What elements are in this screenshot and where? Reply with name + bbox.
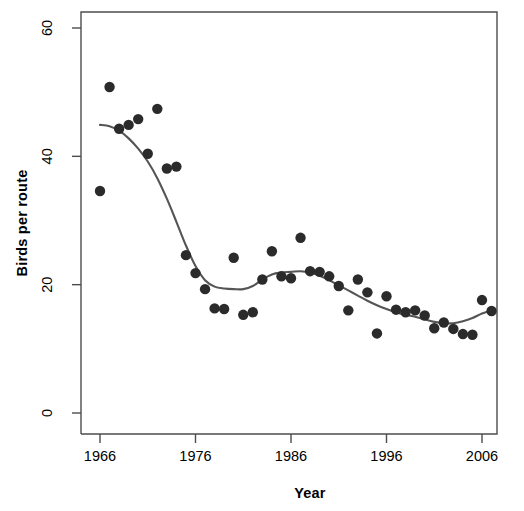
data-point [486,306,496,316]
tick-marks [72,28,482,443]
data-point [343,305,353,315]
data-point [152,104,162,114]
data-point [114,124,124,134]
data-point [162,163,172,173]
data-point [391,304,401,314]
data-point [267,246,277,256]
data-point [410,305,420,315]
x-tick-label: 1966 [84,448,116,464]
data-point [439,317,449,327]
data-point [143,149,153,159]
data-point [104,82,114,92]
data-point [305,266,315,276]
chart-figure: Birds per route Year 1966197619861996200… [0,0,524,511]
plot-canvas [0,0,524,511]
data-point [286,273,296,283]
data-point [219,304,229,314]
data-point [314,267,324,277]
data-point [123,120,133,130]
data-points-group [95,82,497,340]
data-point [458,329,468,339]
data-point [257,274,267,284]
data-point [171,161,181,171]
data-point [229,253,239,263]
data-point [381,291,391,301]
x-axis-title: Year [294,485,325,501]
data-point [324,271,334,281]
y-tick-label: 0 [39,409,55,417]
data-point [181,250,191,260]
x-tick-label: 1996 [370,448,402,464]
data-point [295,233,305,243]
data-point [200,284,210,294]
data-point [190,268,200,278]
trend-line-path [100,125,492,323]
data-point [133,114,143,124]
x-tick-label: 2006 [466,448,498,464]
data-point [400,307,410,317]
data-point [238,310,248,320]
data-point [372,328,382,338]
y-axis-title: Birds per route [14,170,30,277]
y-tick-label: 20 [39,277,55,293]
data-point [477,295,487,305]
x-tick-label: 1986 [275,448,307,464]
data-point [209,303,219,313]
data-point [467,330,477,340]
data-point [276,271,286,281]
data-point [448,324,458,334]
data-point [362,287,372,297]
data-point [420,310,430,320]
y-tick-label: 40 [39,148,55,164]
data-point [334,281,344,291]
axis-lines [81,12,497,434]
data-point [429,323,439,333]
data-point [95,186,105,196]
data-point [248,307,258,317]
x-tick-label: 1976 [179,448,211,464]
y-tick-label: 60 [39,20,55,36]
data-point [353,274,363,284]
